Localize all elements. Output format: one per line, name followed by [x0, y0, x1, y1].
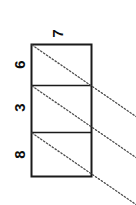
cell-label-6: 6 — [12, 57, 27, 73]
diagram-canvas: 7 6 3 8 — [0, 0, 136, 205]
outer-rectangle — [32, 45, 92, 177]
cell-label-3: 3 — [12, 100, 27, 116]
cell-label-8: 8 — [12, 147, 27, 163]
top-label-7: 7 — [50, 26, 65, 42]
